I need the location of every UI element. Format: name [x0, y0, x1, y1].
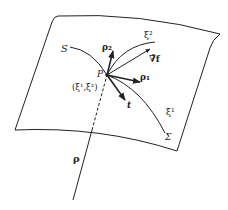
- surface-sigma: [15, 15, 220, 151]
- rho-line: [73, 130, 92, 200]
- label-rho: ρ: [73, 153, 80, 164]
- label-point-p: P: [96, 69, 104, 79]
- surface-diagram: S P (ξ¹,ξ²) ξ² ξ¹ ρ₂ ρ₁ ∇̃f t Σ ρ: [0, 0, 228, 210]
- label-rho1: ρ₁: [140, 72, 150, 82]
- point-p: [105, 73, 109, 77]
- label-coords: (ξ¹,ξ²): [72, 82, 98, 92]
- label-grad-f: ∇̃f: [149, 54, 161, 64]
- label-curve-s: S: [61, 43, 68, 54]
- label-rho2: ρ₂: [102, 42, 112, 52]
- label-surface-sigma: Σ: [164, 132, 172, 142]
- label-xi1: ξ¹: [166, 107, 175, 117]
- label-xi2: ξ²: [144, 30, 153, 40]
- curve-xi2: [107, 42, 155, 75]
- label-t: t: [127, 100, 132, 110]
